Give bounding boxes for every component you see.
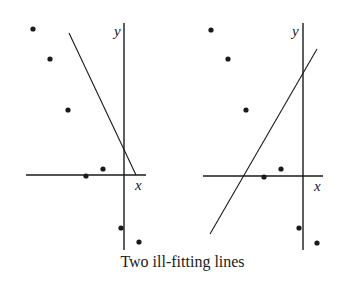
left-data-point: [136, 239, 141, 244]
left-data-point: [118, 225, 123, 230]
right-data-point: [296, 225, 301, 230]
right-y-label: y: [290, 23, 299, 39]
right-data-point: [225, 56, 230, 61]
left-data-point: [65, 107, 70, 112]
left-fit-line: [69, 33, 136, 175]
right-fit-line: [210, 49, 317, 234]
right-data-point: [314, 240, 319, 245]
right-data-point: [261, 174, 266, 179]
left-x-label: x: [134, 177, 142, 193]
right-data-point: [278, 166, 283, 171]
left-y-label: y: [112, 23, 121, 39]
right-data-point: [243, 107, 248, 112]
left-data-point: [83, 173, 88, 178]
figure-caption: Two ill-fitting lines: [0, 253, 345, 271]
left-data-point: [100, 166, 105, 171]
left-data-point: [30, 26, 35, 31]
ill-fitting-lines-diagram: yxyx: [0, 0, 345, 281]
right-data-point: [208, 27, 213, 32]
left-data-point: [47, 56, 52, 61]
right-x-label: x: [313, 178, 321, 194]
